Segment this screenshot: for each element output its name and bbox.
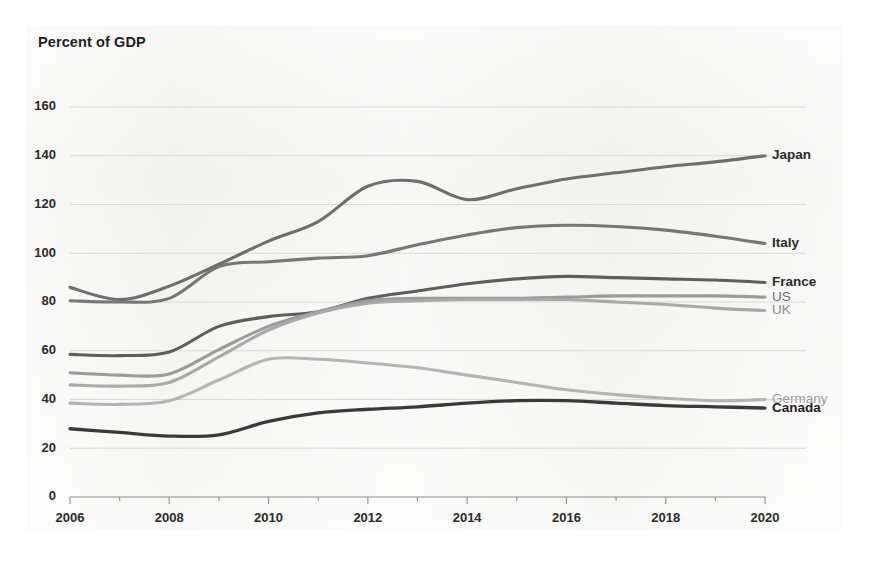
series-label-japan: Japan (772, 147, 811, 162)
y-axis-tick-labels: 020406080100120140160 (34, 98, 56, 503)
y-axis-tick-label: 0 (49, 488, 56, 503)
x-axis-tick-label: 2008 (155, 510, 184, 525)
x-axis-tick-label: 2012 (353, 510, 382, 525)
y-axis-tick-label: 120 (34, 196, 56, 211)
series-label-canada: Canada (772, 400, 821, 415)
x-axis-tick-labels: 20062008201020122014201620182020 (56, 510, 780, 525)
series-line-us (70, 296, 765, 376)
y-axis-tick-label: 160 (34, 98, 56, 113)
x-axis-tick-label: 2014 (453, 510, 483, 525)
x-axis-tick-label: 2010 (254, 510, 283, 525)
x-axis-tick-label: 2018 (651, 510, 680, 525)
data-series-group (70, 156, 765, 437)
x-axis-tick-label: 2006 (56, 510, 85, 525)
x-axis-tick-label: 2016 (552, 510, 581, 525)
series-line-canada (70, 400, 765, 436)
y-axis-tick-label: 140 (34, 147, 56, 162)
line-chart: 020406080100120140160 200620082010201220… (0, 0, 872, 561)
series-label-france: France (772, 274, 817, 289)
y-axis-tick-label: 40 (42, 391, 56, 406)
series-label-italy: Italy (772, 235, 800, 250)
x-axis (70, 497, 765, 504)
series-label-uk: UK (772, 302, 791, 317)
series-line-france (70, 276, 765, 355)
y-axis-tick-label: 60 (42, 342, 56, 357)
chart-figure: Percent of GDP 020406080100120140160 200… (0, 0, 872, 561)
y-axis-tick-label: 80 (42, 293, 56, 308)
y-axis-tick-label: 100 (34, 245, 56, 260)
x-axis-tick-label: 2020 (751, 510, 780, 525)
series-labels-group: JapanItalyFranceUSUKGermanyCanada (772, 147, 828, 414)
y-axis-tick-label: 20 (42, 440, 56, 455)
